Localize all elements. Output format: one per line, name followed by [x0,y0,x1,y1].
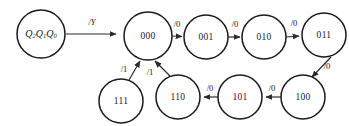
edge-111-to-000 [129,61,140,80]
state-node-000[interactable]: 000 [124,12,172,60]
state-label-100: 100 [295,92,310,102]
state-node-101[interactable]: 101 [218,75,262,119]
state-label-000: 000 [140,31,155,41]
edge-110-to-000 [155,61,170,76]
state-label-register: Q2Q1Q0 [25,28,57,39]
edge-label-010-to-011: /0 [291,18,298,28]
state-label-010: 010 [256,32,271,42]
state-label-001: 001 [198,32,213,42]
edge-label-000-to-001: /0 [174,19,181,29]
state-node-001[interactable]: 001 [184,15,228,59]
edge-010-to-011 [286,36,299,37]
state-label-101: 101 [232,92,247,102]
state-node-110[interactable]: 110 [156,75,200,119]
state-label-111: 111 [114,96,128,106]
state-diagram-canvas: Q2Q1Q0 000 001 010 011 100 101 1 [0,0,349,126]
edge-label-register-output: /Y [87,17,96,27]
state-label-011: 011 [317,30,332,40]
state-node-register[interactable]: Q2Q1Q0 [17,10,65,58]
edge-000-to-001 [172,36,182,37]
state-node-100[interactable]: 100 [281,75,325,119]
state-diagram-svg: Q2Q1Q0 000 001 010 011 100 101 1 [0,0,349,126]
edge-label-011-to-100: /0 [324,61,331,71]
state-node-010[interactable]: 010 [242,15,286,59]
edge-label-001-to-010: /0 [232,19,239,29]
edge-label-100-to-101: /0 [269,83,276,93]
edge-label-101-to-110: /0 [207,83,214,93]
edge-label-110-to-000: /1 [147,67,154,77]
edge-label-111-to-000: /1 [121,64,128,74]
state-node-011[interactable]: 011 [302,13,346,57]
state-label-110: 110 [171,92,186,102]
state-node-111[interactable]: 111 [99,79,143,123]
